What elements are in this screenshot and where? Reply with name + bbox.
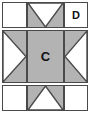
cell-row2-col1-triangle-right [2,30,27,83]
triangle-left-icon [65,31,87,82]
cell-row2-col2: C [27,30,64,83]
quilt-block-diagram: D C [0,0,90,116]
label-d: D [65,3,87,27]
cell-row1-col3: D [64,2,88,28]
cell-row2-col3-triangle-left [64,30,88,83]
cell-row1-col2-triangle-down [27,2,64,28]
cell-row3-col3 [64,85,88,111]
triangle-down-icon [28,3,63,27]
cell-row1-col1 [2,2,27,28]
cell-row3-col2-triangle-up [27,85,64,111]
label-c: C [28,31,63,82]
triangle-up-icon [28,86,63,110]
cell-row3-col1 [2,85,27,111]
triangle-right-icon [3,31,26,82]
